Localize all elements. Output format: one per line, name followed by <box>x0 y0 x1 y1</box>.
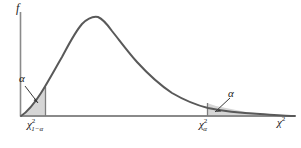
chi-square-distribution-figure: f α α χ21−α χ2α χ2 <box>0 0 301 148</box>
lower-critical-value-label: χ21−α <box>27 119 43 130</box>
lower-critical-value-subscript: 1−α <box>31 125 43 133</box>
upper-critical-value-subscript: α <box>203 125 207 133</box>
x-axis-label: χ2 <box>277 117 285 128</box>
upper-critical-value-label: χ2α <box>199 119 207 130</box>
left-tail-alpha-label: α <box>19 73 25 84</box>
x-axis-label-superscript: 2 <box>282 115 286 123</box>
density-curve <box>21 17 295 116</box>
y-axis-label: f <box>16 2 19 14</box>
left-alpha-arrow <box>25 86 38 103</box>
right-tail-alpha-label: α <box>228 88 234 99</box>
chi-square-plot-canvas <box>0 0 301 148</box>
